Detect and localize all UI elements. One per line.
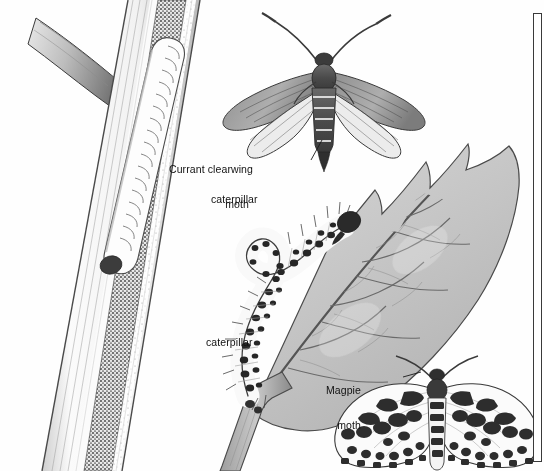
- plate-artwork: [0, 0, 544, 471]
- figure-clearwing-moth: [223, 13, 425, 172]
- label-caterpillar-top: caterpillar: [211, 194, 258, 206]
- label-magpie-moth: Magpie moth: [311, 362, 361, 454]
- illustration-plate: Currant clearwing moth caterpillar cater…: [0, 0, 544, 471]
- label-caterpillar-bottom: caterpillar: [206, 337, 253, 349]
- label-line-2: moth: [311, 420, 361, 432]
- label-currant-clearwing-moth: Currant clearwing moth: [169, 141, 249, 233]
- label-line-1: Currant clearwing: [169, 164, 249, 176]
- figure-stem-section: [28, 0, 200, 471]
- label-line-1: Magpie: [311, 385, 361, 397]
- right-edge-frame: [533, 13, 542, 462]
